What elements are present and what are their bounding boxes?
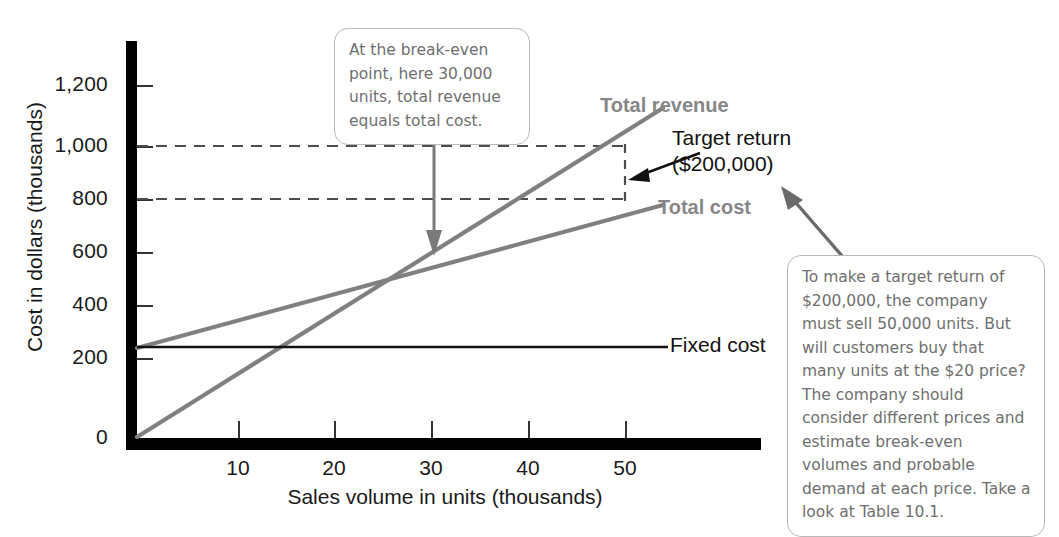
- x-tick-30: [431, 421, 433, 438]
- y-tick-label-400: 400: [72, 292, 108, 316]
- x-tick-label-40: 40: [498, 456, 558, 480]
- x-tick-10: [238, 421, 240, 438]
- x-axis-bar: [126, 438, 761, 450]
- series-label-total-cost: Total cost: [658, 196, 751, 219]
- x-tick-20: [334, 421, 336, 438]
- y-tick-200: [137, 358, 153, 360]
- series-label-total-revenue: Total revenue: [600, 94, 729, 117]
- breakeven-arrow-head: [426, 230, 442, 256]
- x-axis-title: Sales volume in units (thousands): [205, 485, 685, 509]
- target-return-label-line2: ($200,000): [672, 152, 774, 177]
- target-return-label-line1: Target return: [672, 126, 791, 151]
- y-tick-label-0: 0: [96, 425, 108, 449]
- x-tick-label-20: 20: [304, 456, 364, 480]
- target-callout-arrow-head: [781, 186, 803, 210]
- x-tick-label-50: 50: [595, 456, 655, 480]
- total-cost-line: [137, 205, 663, 348]
- y-tick-1200: [137, 85, 153, 87]
- total-revenue-line: [137, 108, 663, 437]
- target-return-arrow-head: [628, 168, 650, 182]
- x-tick-40: [528, 421, 530, 438]
- y-tick-label-1000: 1,000: [54, 133, 108, 157]
- y-tick-label-200: 200: [72, 345, 108, 369]
- y-tick-label-600: 600: [72, 239, 108, 263]
- y-tick-800: [137, 199, 153, 201]
- y-tick-600: [137, 252, 153, 254]
- x-tick-label-30: 30: [401, 456, 461, 480]
- x-tick-label-10: 10: [208, 456, 268, 480]
- y-tick-1000: [137, 146, 153, 148]
- y-tick-label-800: 800: [72, 186, 108, 210]
- y-tick-label-1200: 1,200: [54, 72, 108, 96]
- target-callout-arrow-shaft: [790, 196, 843, 257]
- callout-break-even: At the break-even point, here 30,000 uni…: [334, 28, 530, 145]
- y-axis-bar: [126, 41, 137, 450]
- callout-target-return: To make a target return of $200,000, the…: [787, 255, 1045, 537]
- y-axis-title: Cost in dollars (thousands): [23, 77, 47, 377]
- series-label-fixed-cost: Fixed cost: [670, 333, 766, 358]
- y-tick-400: [137, 305, 153, 307]
- x-tick-50: [625, 421, 627, 438]
